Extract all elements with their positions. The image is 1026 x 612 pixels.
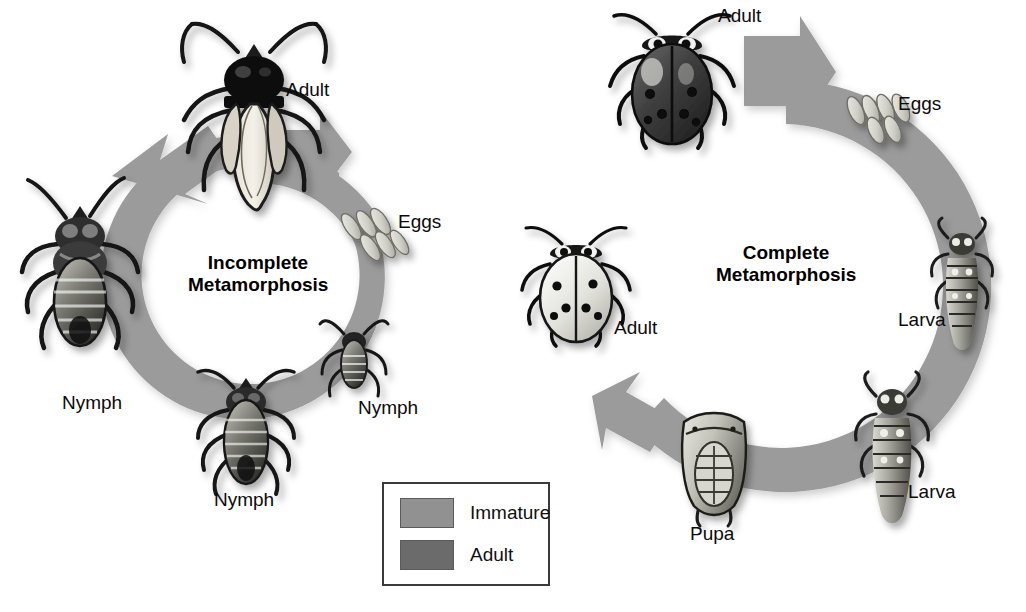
legend-swatch-adult (400, 540, 454, 570)
label-complete-adult-top: Adult (718, 6, 761, 26)
complete-title-line-1: Complete (716, 242, 856, 264)
label-complete-adult-left: Adult (614, 318, 657, 338)
label-incomplete-nymph-bottom: Nymph (214, 490, 274, 510)
metamorphosis-figure: Incomplete Metamorphosis Adult Eggs Nymp… (0, 0, 1026, 612)
legend-label-immature: Immature (470, 502, 550, 524)
legend: Immature Adult (382, 482, 550, 586)
complete-title-line-2: Metamorphosis (716, 264, 856, 286)
incomplete-title-line-1: Incomplete (188, 252, 328, 274)
label-incomplete-nymph-right: Nymph (358, 398, 418, 418)
legend-swatch-immature (400, 498, 454, 528)
legend-label-adult: Adult (470, 544, 513, 566)
organism-adult-winged-bug (182, 24, 326, 210)
label-complete-pupa: Pupa (690, 524, 734, 544)
incomplete-cycle-title: Incomplete Metamorphosis (188, 252, 328, 297)
organism-ladybug-dark (610, 15, 734, 148)
legend-item-immature: Immature (400, 498, 550, 528)
incomplete-title-line-2: Metamorphosis (188, 274, 328, 296)
complete-cycle-title: Complete Metamorphosis (716, 242, 856, 287)
label-incomplete-eggs: Eggs (398, 212, 441, 232)
label-incomplete-nymph-left: Nymph (62, 393, 122, 413)
label-complete-larva-right: Larva (898, 310, 946, 330)
label-complete-eggs: Eggs (898, 94, 941, 114)
legend-item-adult: Adult (400, 540, 513, 570)
label-incomplete-adult: Adult (286, 80, 329, 100)
organism-ladybug-pupa (682, 413, 746, 526)
label-complete-larva-lower: Larva (908, 482, 956, 502)
